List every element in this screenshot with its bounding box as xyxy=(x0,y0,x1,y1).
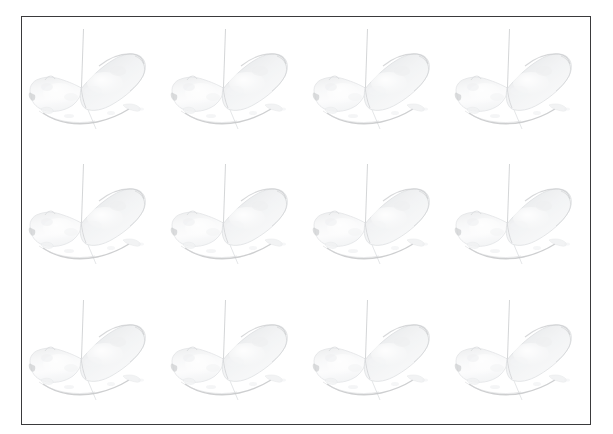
ground-debris-left xyxy=(467,107,479,113)
texture-blotch-c xyxy=(536,337,552,347)
texture-blotch-c xyxy=(394,201,410,211)
texture-blotch-b xyxy=(490,364,504,372)
texture-blotch-c xyxy=(536,201,552,211)
probe-line-upper xyxy=(508,300,510,358)
ground-debris-right xyxy=(549,375,566,382)
probe-line-upper xyxy=(224,29,226,87)
texture-blotch-d xyxy=(510,221,528,231)
texture-blotch-a xyxy=(183,83,195,91)
render-tile xyxy=(164,153,306,289)
texture-blotch-a xyxy=(183,354,195,362)
ground-speck-a xyxy=(348,385,358,389)
probe-line-upper xyxy=(508,29,510,87)
probe-line-upper xyxy=(366,164,368,222)
ground-debris-left xyxy=(183,107,195,113)
render-tile xyxy=(22,17,164,153)
render-tile xyxy=(22,288,164,424)
texture-blotch-b xyxy=(348,93,362,101)
ground-debris-right xyxy=(265,104,282,111)
texture-blotch-b xyxy=(348,364,362,372)
ground-speck-a xyxy=(490,385,500,389)
texture-blotch-b xyxy=(206,93,220,101)
texture-blotch-b xyxy=(64,364,78,372)
ground-debris-right xyxy=(123,239,140,246)
texture-blotch-c xyxy=(394,337,410,347)
ground-debris-left xyxy=(41,378,53,384)
ground-speck-b xyxy=(533,382,541,386)
ground-speck-c xyxy=(564,243,570,246)
ground-speck-a xyxy=(206,114,216,118)
texture-blotch-c xyxy=(110,201,126,211)
render-content xyxy=(313,29,430,129)
render-svg xyxy=(23,25,161,143)
ground-speck-a xyxy=(490,249,500,253)
render-figure xyxy=(165,160,303,278)
probe-line-upper xyxy=(366,29,368,87)
ground-debris-left xyxy=(325,378,337,384)
texture-blotch-a xyxy=(325,218,337,226)
render-figure xyxy=(23,160,161,278)
ground-speck-b xyxy=(107,246,115,250)
probe-line-upper xyxy=(82,164,84,222)
texture-blotch-d xyxy=(226,221,244,231)
ground-speck-b xyxy=(391,246,399,250)
render-tile xyxy=(306,153,448,289)
texture-blotch-c xyxy=(110,66,126,76)
texture-blotch-d xyxy=(226,357,244,367)
screenshot-root xyxy=(0,0,613,434)
ground-speck-b xyxy=(533,111,541,115)
render-content xyxy=(171,164,288,264)
ground-speck-c xyxy=(564,107,570,110)
ground-speck-a xyxy=(348,249,358,253)
render-content xyxy=(29,300,146,400)
texture-blotch-b xyxy=(348,228,362,236)
texture-blotch-b xyxy=(490,93,504,101)
texture-blotch-d xyxy=(368,357,386,367)
ground-speck-c xyxy=(422,379,428,382)
texture-blotch-a xyxy=(41,83,53,91)
render-content xyxy=(171,29,288,129)
texture-blotch-b xyxy=(64,228,78,236)
ground-speck-c xyxy=(422,107,428,110)
render-figure xyxy=(23,296,161,414)
ground-debris-right xyxy=(265,239,282,246)
render-tile xyxy=(448,153,590,289)
render-figure xyxy=(449,296,587,414)
render-svg xyxy=(449,160,587,278)
texture-blotch-c xyxy=(536,66,552,76)
render-svg xyxy=(23,160,161,278)
texture-blotch-d xyxy=(510,357,528,367)
render-svg xyxy=(23,296,161,414)
probe-line-upper xyxy=(508,164,510,222)
texture-blotch-b xyxy=(206,228,220,236)
ground-speck-a xyxy=(490,114,500,118)
probe-line-upper xyxy=(82,300,84,358)
probe-line-upper xyxy=(82,29,84,87)
render-svg xyxy=(307,296,445,414)
ground-debris-left xyxy=(183,243,195,249)
render-tile xyxy=(306,288,448,424)
render-figure xyxy=(449,160,587,278)
ground-speck-b xyxy=(533,246,541,250)
render-svg xyxy=(307,160,445,278)
ground-speck-c xyxy=(280,107,286,110)
ground-speck-c xyxy=(280,379,286,382)
render-svg xyxy=(449,25,587,143)
texture-blotch-c xyxy=(252,66,268,76)
ground-debris-right xyxy=(549,104,566,111)
ground-speck-a xyxy=(64,249,74,253)
texture-blotch-d xyxy=(510,86,528,96)
ground-speck-c xyxy=(280,243,286,246)
ground-debris-right xyxy=(407,239,424,246)
texture-blotch-d xyxy=(226,86,244,96)
ground-debris-right xyxy=(407,104,424,111)
texture-blotch-a xyxy=(467,354,479,362)
content-frame xyxy=(21,16,591,425)
ground-debris-left xyxy=(183,378,195,384)
ground-speck-b xyxy=(107,111,115,115)
ground-debris-right xyxy=(549,239,566,246)
ground-speck-b xyxy=(249,246,257,250)
render-figure xyxy=(165,296,303,414)
render-content xyxy=(171,300,288,400)
render-tile xyxy=(306,17,448,153)
